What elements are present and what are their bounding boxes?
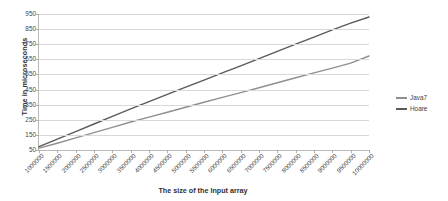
series-line-hoare [39,17,369,147]
y-axis-tick-label: 650 [12,55,36,63]
y-axis-tick-label: 850 [12,25,36,33]
gridline [39,14,369,15]
legend-label: Java7 [410,94,427,101]
y-axis-tick-mark [36,135,39,136]
legend-entry[interactable]: Java7 [396,92,448,103]
x-axis-title: The size of the Input array [38,186,368,195]
y-axis-tick-label: 950 [12,10,36,18]
series-lines [39,14,369,150]
y-axis-tick-label: 750 [12,40,36,48]
y-axis-tick-label: 450 [12,86,36,94]
gridline [39,105,369,106]
plot-area [38,14,369,151]
y-axis-tick-mark [36,105,39,106]
y-axis-tick-label: 350 [12,101,36,109]
chart-legend: Java7Hoare [396,92,448,114]
y-axis-tick-label: 550 [12,70,36,78]
legend-label: Hoare [410,105,427,112]
legend-swatch-icon [396,97,407,99]
gridline [39,74,369,75]
gridline [39,120,369,121]
y-axis-tick-labels: 95085075065055045035025015050 [12,10,36,152]
gridline [39,29,369,30]
y-axis-tick-mark [36,120,39,121]
gridline [39,90,369,91]
y-axis-tick-mark [36,29,39,30]
y-axis-tick-mark [36,90,39,91]
gridline [39,44,369,45]
y-axis-tick-mark [36,74,39,75]
y-axis-tick-label: 150 [12,131,36,139]
legend-swatch-icon [396,108,407,110]
y-axis-tick-mark [36,59,39,60]
legend-entry[interactable]: Hoare [396,103,448,114]
y-axis-tick-label: 250 [12,116,36,124]
y-axis-tick-mark [36,14,39,15]
x-axis-tick-labels: 1000000150000020000002500000300000035000… [38,152,368,186]
line-chart: Time in microseconds 9508507506505504503… [0,0,448,201]
gridline [39,59,369,60]
y-axis-tick-mark [36,44,39,45]
gridline [39,135,369,136]
y-axis-tick-label: 50 [12,146,36,154]
